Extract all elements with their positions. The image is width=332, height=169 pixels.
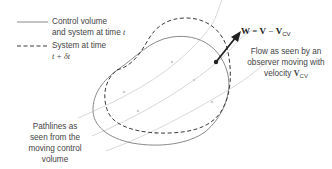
flow-label-line2: observer moving with xyxy=(240,57,332,68)
flow-label-line3: velocity VCV xyxy=(240,68,332,82)
flow-marker xyxy=(171,61,174,64)
flow-marker xyxy=(137,110,140,113)
legend-solid-line1: Control volume xyxy=(52,16,125,27)
legend-control-volume-label: Control volume and system at time t xyxy=(52,16,125,38)
flow-label-line1: Flow as seen by an xyxy=(240,46,332,57)
flow-marker xyxy=(211,101,214,104)
pathlines-label: Pathlines as seen from the moving contro… xyxy=(18,121,92,165)
flow-observer-label: Flow as seen by an observer moving with … xyxy=(240,46,332,82)
legend-dashed-line1: System at time xyxy=(52,40,106,51)
legend-dashed-line2: t + δt xyxy=(52,51,106,62)
flow-marker xyxy=(123,91,126,94)
legend-system-label: System at time t + δt xyxy=(52,40,106,62)
pathlines-label-line3: moving control xyxy=(18,143,92,154)
relative-velocity-equation: W = V − VCV xyxy=(241,26,291,40)
pathlines-label-line4: volume xyxy=(18,154,92,165)
pathlines-label-line2: seen from the xyxy=(18,132,92,143)
control-volume-outline xyxy=(93,36,229,145)
flow-marker xyxy=(193,79,196,82)
pathlines-label-line1: Pathlines as xyxy=(18,121,92,132)
legend-solid-line2: and system at time t xyxy=(52,27,125,38)
relative-velocity-arrow xyxy=(214,31,241,64)
